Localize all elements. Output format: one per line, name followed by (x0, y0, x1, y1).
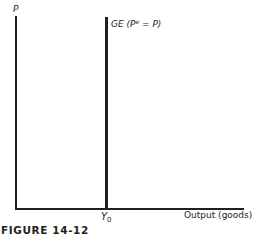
price-axis (15, 16, 17, 209)
y0-tick-label: Y0 (101, 212, 112, 225)
ge-label-suffix: = P) (139, 19, 161, 29)
y0-subscript: 0 (107, 216, 111, 224)
figure-caption: FIGURE 14-12 (1, 224, 89, 235)
x-axis-label: Output (goods) (184, 210, 252, 220)
ge-label-prefix: GE (P (111, 19, 135, 29)
ge-curve (105, 17, 108, 209)
y-axis-label: P (13, 4, 18, 14)
ge-curve-label: GE (Pe = P) (111, 17, 161, 29)
